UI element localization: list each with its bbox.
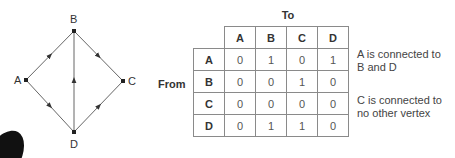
cell: 1 — [287, 115, 318, 137]
table-row: D 0 1 1 0 — [194, 115, 349, 137]
header-row: A B C D — [194, 27, 349, 49]
col-header-a: A — [225, 27, 256, 49]
cell: 0 — [225, 49, 256, 71]
adjacency-matrix: A B C D A 0 1 0 1 B 0 0 1 0 C 0 0 0 0 D … — [193, 26, 349, 137]
cell: 0 — [318, 93, 349, 115]
cell: 0 — [256, 71, 287, 93]
edge-a-b — [26, 31, 74, 80]
row-header-a: A — [194, 49, 225, 71]
cell: 0 — [225, 93, 256, 115]
cell: 1 — [256, 49, 287, 71]
directed-graph: A B C D — [0, 0, 160, 158]
vertex-d-dot — [72, 130, 76, 134]
cell: 0 — [318, 71, 349, 93]
cell: 1 — [256, 115, 287, 137]
note-line: no other vertex — [357, 107, 455, 120]
vertex-d-label: D — [70, 139, 78, 150]
cell: 0 — [256, 93, 287, 115]
vertex-b-dot — [72, 29, 76, 33]
graph-edges — [0, 0, 160, 158]
to-axis-label: To — [276, 9, 300, 21]
row-header-b: B — [194, 71, 225, 93]
vertex-c-label: C — [128, 76, 136, 87]
cell: 0 — [318, 115, 349, 137]
vertex-a-label: A — [14, 75, 21, 86]
note-a-connections: A is connected to B and D — [357, 48, 455, 74]
cell: 0 — [287, 49, 318, 71]
vertex-c-dot — [121, 79, 125, 83]
row-header-c: C — [194, 93, 225, 115]
from-axis-label: From — [158, 78, 186, 90]
table-row: C 0 0 0 0 — [194, 93, 349, 115]
col-header-b: B — [256, 27, 287, 49]
vertex-b-label: B — [70, 14, 77, 25]
edge-a-d — [26, 80, 74, 132]
cell: 0 — [287, 93, 318, 115]
col-header-d: D — [318, 27, 349, 49]
col-header-c: C — [287, 27, 318, 49]
cell: 0 — [225, 115, 256, 137]
cell: 1 — [318, 49, 349, 71]
cell: 1 — [287, 71, 318, 93]
table-row: B 0 0 1 0 — [194, 71, 349, 93]
note-c-connections: C is connected to no other vertex — [357, 94, 455, 120]
corner-cell — [194, 27, 225, 49]
cell: 0 — [225, 71, 256, 93]
table-row: A 0 1 0 1 — [194, 49, 349, 71]
vertex-a-dot — [24, 78, 28, 82]
edge-d-c — [74, 81, 123, 132]
note-line: A is connected to — [357, 48, 455, 61]
row-header-d: D — [194, 115, 225, 137]
note-line: B and D — [357, 61, 455, 74]
note-line: C is connected to — [357, 94, 455, 107]
edge-b-c — [74, 31, 123, 81]
